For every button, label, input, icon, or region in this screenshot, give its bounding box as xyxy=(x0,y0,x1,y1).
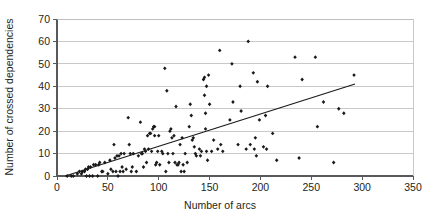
data-point xyxy=(218,48,222,52)
data-point xyxy=(153,134,157,138)
data-point xyxy=(130,165,134,169)
data-point xyxy=(342,111,346,115)
data-point xyxy=(126,116,130,120)
y-tick-label-20: 20 xyxy=(38,125,50,137)
data-point xyxy=(91,174,95,178)
data-point xyxy=(337,107,341,111)
y-axis-title: Number of crossed dependencies xyxy=(3,18,15,175)
data-point xyxy=(157,134,161,138)
x-tick-label-50: 50 xyxy=(102,181,114,193)
data-point xyxy=(203,93,207,97)
data-point xyxy=(212,138,216,142)
data-point xyxy=(174,105,178,109)
scatter-chart: 010203040506070 050100150200250300350 Nu… xyxy=(0,0,437,217)
data-point xyxy=(236,143,240,147)
plot-frame xyxy=(57,19,413,176)
data-point xyxy=(188,102,192,106)
data-point xyxy=(210,149,214,153)
y-tick-label-60: 60 xyxy=(38,35,50,47)
data-point xyxy=(256,80,260,84)
data-point xyxy=(262,145,266,149)
data-point xyxy=(167,161,171,165)
data-point xyxy=(85,174,89,178)
data-point xyxy=(204,111,208,115)
data-point xyxy=(178,143,182,147)
data-point xyxy=(181,163,185,167)
data-point xyxy=(171,152,175,156)
data-point xyxy=(221,149,225,153)
data-point xyxy=(156,149,160,153)
data-point xyxy=(135,170,139,174)
data-point xyxy=(253,147,257,151)
data-point xyxy=(118,170,122,174)
y-tick-label-30: 30 xyxy=(38,102,50,114)
x-axis-title: Number of arcs xyxy=(184,199,256,211)
data-point xyxy=(275,158,279,162)
data-point xyxy=(145,161,149,165)
data-point xyxy=(199,154,203,158)
data-point xyxy=(271,131,275,135)
data-point xyxy=(114,170,118,174)
data-point xyxy=(71,174,75,178)
data-point xyxy=(207,73,211,77)
data-point xyxy=(189,114,193,118)
data-point xyxy=(316,125,320,129)
data-point xyxy=(158,163,162,167)
data-point xyxy=(112,143,116,147)
data-point xyxy=(179,170,183,174)
data-point xyxy=(266,84,270,88)
data-point xyxy=(106,172,110,176)
data-point xyxy=(127,143,131,147)
data-point xyxy=(204,127,208,131)
x-axis-tick-labels: 050100150200250300350 xyxy=(54,181,422,193)
data-point xyxy=(163,66,167,70)
gridlines-group xyxy=(57,19,413,154)
data-point xyxy=(255,154,259,158)
x-tick-label-0: 0 xyxy=(54,181,60,193)
data-point xyxy=(297,156,301,160)
data-point xyxy=(244,147,248,151)
data-point xyxy=(88,174,92,178)
data-point xyxy=(185,161,189,165)
data-point xyxy=(265,147,269,151)
data-point xyxy=(129,170,133,174)
data-point xyxy=(254,136,258,140)
y-tick-label-40: 40 xyxy=(38,80,50,92)
x-tick-label-100: 100 xyxy=(150,181,168,193)
y-axis-tick-labels: 010203040506070 xyxy=(38,13,50,182)
x-tick-label-200: 200 xyxy=(252,181,270,193)
trend-line-segment xyxy=(65,84,355,176)
data-point xyxy=(166,152,170,156)
data-point xyxy=(142,165,146,169)
x-tick-label-250: 250 xyxy=(303,181,321,193)
data-point xyxy=(96,174,100,178)
y-tick-label-10: 10 xyxy=(38,147,50,159)
data-point xyxy=(300,78,304,82)
data-point xyxy=(164,170,168,174)
data-point xyxy=(238,84,242,88)
data-point xyxy=(187,125,191,129)
data-point xyxy=(322,100,326,104)
data-point xyxy=(137,154,141,158)
data-point xyxy=(150,149,154,153)
data-point xyxy=(208,102,212,106)
trend-line xyxy=(65,84,355,176)
y-tick-label-50: 50 xyxy=(38,58,50,70)
data-point xyxy=(314,55,318,59)
data-point xyxy=(248,143,252,147)
data-point xyxy=(124,167,128,171)
data-point xyxy=(231,100,235,104)
data-point xyxy=(246,39,250,43)
data-point xyxy=(352,73,356,77)
data-point xyxy=(165,89,169,93)
data-point xyxy=(183,152,187,156)
x-tick-label-300: 300 xyxy=(353,181,371,193)
data-point xyxy=(219,143,223,147)
y-tick-label-0: 0 xyxy=(44,170,50,182)
data-point xyxy=(205,149,209,153)
data-point xyxy=(139,120,143,124)
data-point xyxy=(206,158,210,162)
data-point xyxy=(228,118,232,122)
tick-marks-group xyxy=(53,19,413,180)
data-point xyxy=(205,84,209,88)
